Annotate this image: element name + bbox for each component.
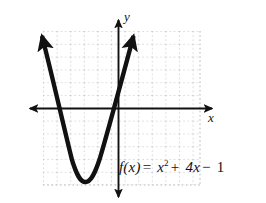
x-axis-label: x	[208, 111, 214, 124]
function-equation: f(x)= x2+ 4x− 1	[119, 158, 224, 176]
y-axis-label: y	[124, 10, 130, 23]
equation-operator-2: −	[200, 159, 213, 175]
equation-lhs: f(x)	[119, 159, 141, 175]
equation-term2: 4x	[185, 159, 200, 175]
equation-operator-1: +	[169, 159, 182, 175]
equation-equals: =	[141, 159, 154, 175]
equation-term3: 1	[217, 159, 225, 175]
graph-figure: y x f(x)= x2+ 4x− 1	[0, 0, 266, 203]
